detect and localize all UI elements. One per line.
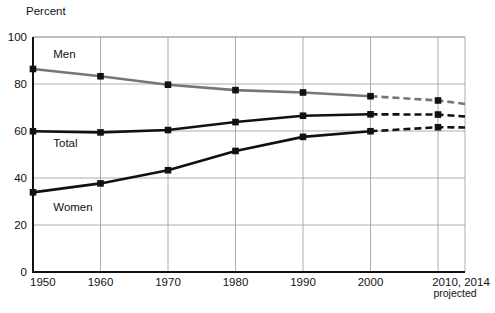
axis-lines (32, 37, 465, 272)
data-point-marker (300, 89, 307, 96)
series-line-projected-total (371, 114, 466, 116)
data-point-marker (300, 112, 307, 119)
data-point-marker (165, 167, 172, 174)
labor-force-participation-chart: 020406080100 195019601970198019902000201… (0, 0, 495, 313)
y-tick-label: 60 (14, 125, 27, 137)
data-point-marker (97, 180, 104, 187)
data-point-marker (97, 129, 104, 136)
data-point-marker (97, 73, 104, 80)
data-point-marker (232, 148, 239, 155)
projected-note-label: projected (433, 287, 476, 299)
data-point-marker (367, 111, 374, 118)
series-line-projected-men (371, 96, 466, 104)
data-point-marker (435, 97, 442, 104)
data-point-marker (232, 87, 239, 94)
plot-frame (33, 37, 465, 272)
series-line-solid-men (33, 69, 371, 96)
y-axis-title: Percent (26, 5, 66, 17)
x-tick-label: 2000 (358, 276, 384, 288)
x-axis-tick-labels: 1950196019701980199020002010, 2014 (30, 276, 490, 288)
x-tick-label: 1960 (88, 276, 114, 288)
data-point-marker (367, 93, 374, 100)
series-line-solid-total (33, 114, 371, 132)
data-point-marker (435, 111, 442, 118)
data-point-marker (367, 128, 374, 135)
y-tick-label: 80 (14, 78, 27, 90)
x-tick-label: 1980 (223, 276, 249, 288)
data-point-marker (232, 119, 239, 126)
x-tick-label: 1950 (30, 276, 56, 288)
data-point-marker (300, 134, 307, 141)
series-label-women: Women (53, 201, 92, 213)
gridlines (33, 37, 465, 272)
y-tick-label: 40 (14, 172, 27, 184)
series-label-men: Men (53, 48, 75, 60)
x-tick-label: 1970 (155, 276, 181, 288)
y-tick-label: 20 (14, 219, 27, 231)
chart-canvas: 020406080100 195019601970198019902000201… (0, 0, 495, 313)
data-point-marker (165, 81, 172, 88)
series-label-total: Total (53, 137, 77, 149)
x-tick-label: 1990 (290, 276, 316, 288)
series-line-solid-women (33, 131, 371, 192)
y-tick-label: 100 (8, 31, 27, 43)
y-axis-tick-labels: 020406080100 (8, 31, 27, 278)
data-point-marker (165, 127, 172, 134)
y-tick-label: 0 (21, 266, 27, 278)
data-point-marker (435, 124, 442, 131)
